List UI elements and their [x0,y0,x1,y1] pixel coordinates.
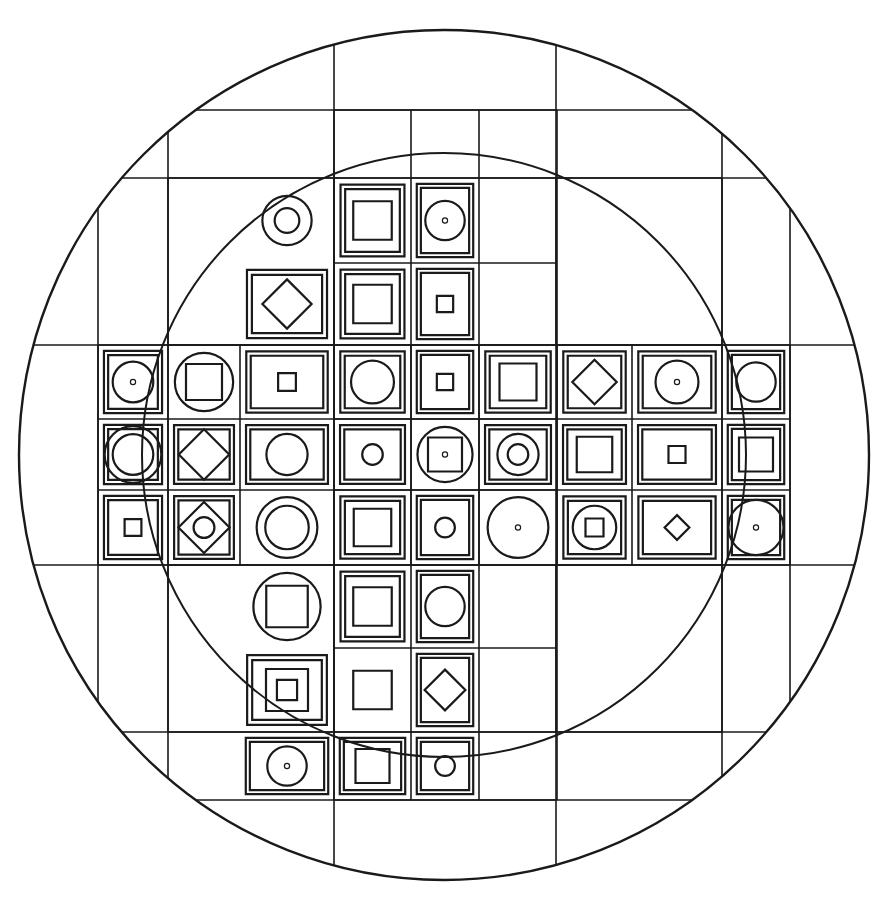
mandala-canvas [0,0,889,909]
mandala-drawing [0,0,889,909]
paper-background [0,0,889,909]
